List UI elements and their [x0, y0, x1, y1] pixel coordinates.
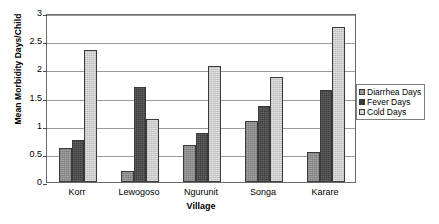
bar-karare-fever-days: [320, 90, 333, 182]
y-axis-tick-label: 1.5: [16, 94, 42, 103]
bar-karare-diarrhea-days: [307, 152, 320, 182]
x-axis-tick-label: Songa: [232, 187, 294, 197]
legend-item: Fever Days: [359, 97, 421, 107]
plot-area: [46, 14, 356, 183]
y-axis-tick-label: 1: [16, 122, 42, 131]
legend-item: Diarrhea Days: [359, 87, 421, 97]
bar-chart: Mean Morbidity Days/Child 00.511.522.53 …: [0, 0, 439, 224]
bar-songa-diarrhea-days: [245, 121, 258, 182]
y-axis-tick-label: 3: [16, 9, 42, 18]
legend-label: Cold Days: [367, 107, 406, 117]
bar-korr-fever-days: [72, 140, 85, 182]
legend-item: Cold Days: [359, 107, 421, 117]
bar-songa-fever-days: [258, 106, 271, 182]
y-axis-tick-label: 2.5: [16, 37, 42, 46]
legend-label: Fever Days: [367, 97, 410, 107]
y-axis-tick-label: 0.5: [16, 150, 42, 159]
bar-songa-cold-days: [270, 77, 283, 182]
x-axis-title: Village: [46, 201, 356, 211]
bar-korr-diarrhea-days: [59, 148, 72, 182]
chart-legend: Diarrhea DaysFever DaysCold Days: [356, 84, 425, 120]
y-axis-tick-labels: 00.511.522.53: [14, 0, 42, 224]
y-axis-tick-label: 0: [16, 178, 42, 187]
x-axis-tick-label: Ngurunit: [170, 187, 232, 197]
legend-swatch-icon: [359, 89, 365, 95]
legend-swatch-icon: [359, 109, 365, 115]
bar-ngurunit-fever-days: [196, 133, 209, 182]
bar-ngurunit-cold-days: [208, 66, 221, 182]
x-axis-tick-label: Lewogoso: [108, 187, 170, 197]
bar-karare-cold-days: [332, 27, 345, 182]
bar-ngurunit-diarrhea-days: [183, 145, 196, 182]
bar-korr-cold-days: [84, 50, 97, 182]
legend-swatch-icon: [359, 99, 365, 105]
bars-layer: [47, 15, 355, 182]
bar-lewogoso-diarrhea-days: [121, 171, 134, 182]
bar-lewogoso-cold-days: [146, 119, 159, 182]
legend-label: Diarrhea Days: [367, 87, 421, 97]
x-axis-tick-label: Korr: [46, 187, 108, 197]
x-axis-tick-label: Karare: [294, 187, 356, 197]
y-axis-tick-mark: [43, 184, 47, 185]
y-axis-tick-label: 2: [16, 65, 42, 74]
bar-lewogoso-fever-days: [134, 87, 147, 182]
